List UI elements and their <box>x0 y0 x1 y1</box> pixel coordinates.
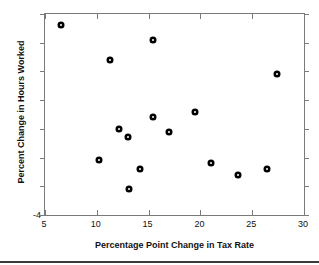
x-axis-tick <box>200 210 201 215</box>
y-axis-tick-right <box>304 186 309 187</box>
data-point <box>208 160 214 166</box>
y-axis-tick <box>40 100 45 101</box>
plot-area <box>44 13 305 216</box>
x-axis-tick-label: 20 <box>184 219 214 229</box>
y-axis-tick <box>40 71 45 72</box>
y-axis-tick <box>40 129 45 130</box>
data-point <box>126 186 132 192</box>
data-point <box>274 71 280 77</box>
data-point <box>58 22 64 28</box>
x-axis-tick-label: 10 <box>81 219 111 229</box>
x-axis-tick-top <box>97 14 98 19</box>
data-point <box>235 172 241 178</box>
y-axis-tick-right <box>304 129 309 130</box>
y-axis-tick <box>40 43 45 44</box>
y-axis-tick <box>40 14 45 15</box>
data-point <box>116 126 122 132</box>
x-axis-tick-label: 5 <box>29 219 59 229</box>
x-axis-tick-top <box>149 14 150 19</box>
x-axis-tick-top <box>252 14 253 19</box>
y-axis-tick <box>40 158 45 159</box>
x-axis-tick <box>252 210 253 215</box>
data-point <box>192 109 198 115</box>
data-point <box>264 166 270 172</box>
data-point <box>107 57 113 63</box>
x-axis-tick <box>149 210 150 215</box>
y-axis-tick-right <box>304 43 309 44</box>
x-axis-tick-top <box>45 14 46 19</box>
x-axis-tick-label: 30 <box>288 219 318 229</box>
x-axis-title: Percentage Point Change in Tax Rate <box>44 240 305 250</box>
x-axis-tick <box>45 210 46 215</box>
data-point <box>150 37 156 43</box>
data-point <box>137 166 143 172</box>
y-axis-tick <box>40 186 45 187</box>
scatter-chart-figure: Percent Change in Hours Worked -4 Percen… <box>0 0 319 265</box>
x-axis-tick <box>97 210 98 215</box>
x-axis-tick-label: 25 <box>236 219 266 229</box>
y-axis-tick-right <box>304 215 309 216</box>
y-axis-tick <box>40 215 45 216</box>
y-axis-tick-right <box>304 14 309 15</box>
data-point <box>166 129 172 135</box>
y-axis-tick-right <box>304 158 309 159</box>
x-axis-tick-top <box>200 14 201 19</box>
y-axis-tick-right <box>304 71 309 72</box>
data-point <box>125 134 131 140</box>
data-point <box>96 157 102 163</box>
y-axis-tick-right <box>304 100 309 101</box>
y-axis-title: Percent Change in Hours Worked <box>16 12 26 212</box>
figure-bottom-rule <box>0 261 319 263</box>
x-axis-tick-label: 15 <box>133 219 163 229</box>
data-point <box>150 114 156 120</box>
